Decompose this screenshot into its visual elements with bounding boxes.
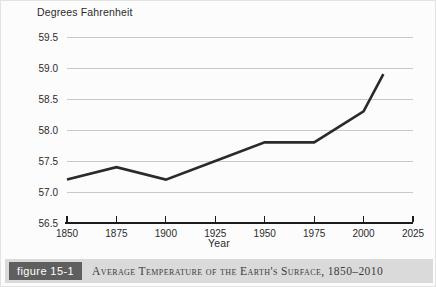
y-tick-label: 59.5	[39, 32, 59, 43]
temperature-series-group	[67, 74, 383, 179]
y-tick-label: 58.5	[39, 94, 59, 105]
y-tick-label: 58.0	[39, 125, 59, 136]
y-tick-label: 56.5	[39, 218, 59, 229]
temperature-line	[67, 74, 383, 179]
y-tick-labels-group: 56.557.057.558.058.559.059.5	[39, 32, 59, 229]
y-tick-label: 59.0	[39, 63, 59, 74]
figure-caption-bar: figure 15-1 Average Temperature of the E…	[5, 259, 433, 283]
chart-plot-region: Degrees Fahrenheit 56.557.057.558.058.55…	[1, 1, 436, 253]
line-chart-svg: 56.557.057.558.058.559.059.5 18501875190…	[1, 1, 436, 253]
figure-number-badge: figure 15-1	[9, 262, 82, 280]
y-tick-label: 57.0	[39, 187, 59, 198]
figure-caption-text: Average Temperature of the Earth's Surfa…	[92, 265, 383, 277]
figure-container: Degrees Fahrenheit 56.557.057.558.058.55…	[0, 0, 436, 287]
x-axis-group	[65, 216, 413, 223]
x-axis-title: Year	[1, 237, 436, 249]
y-tick-label: 57.5	[39, 156, 59, 167]
